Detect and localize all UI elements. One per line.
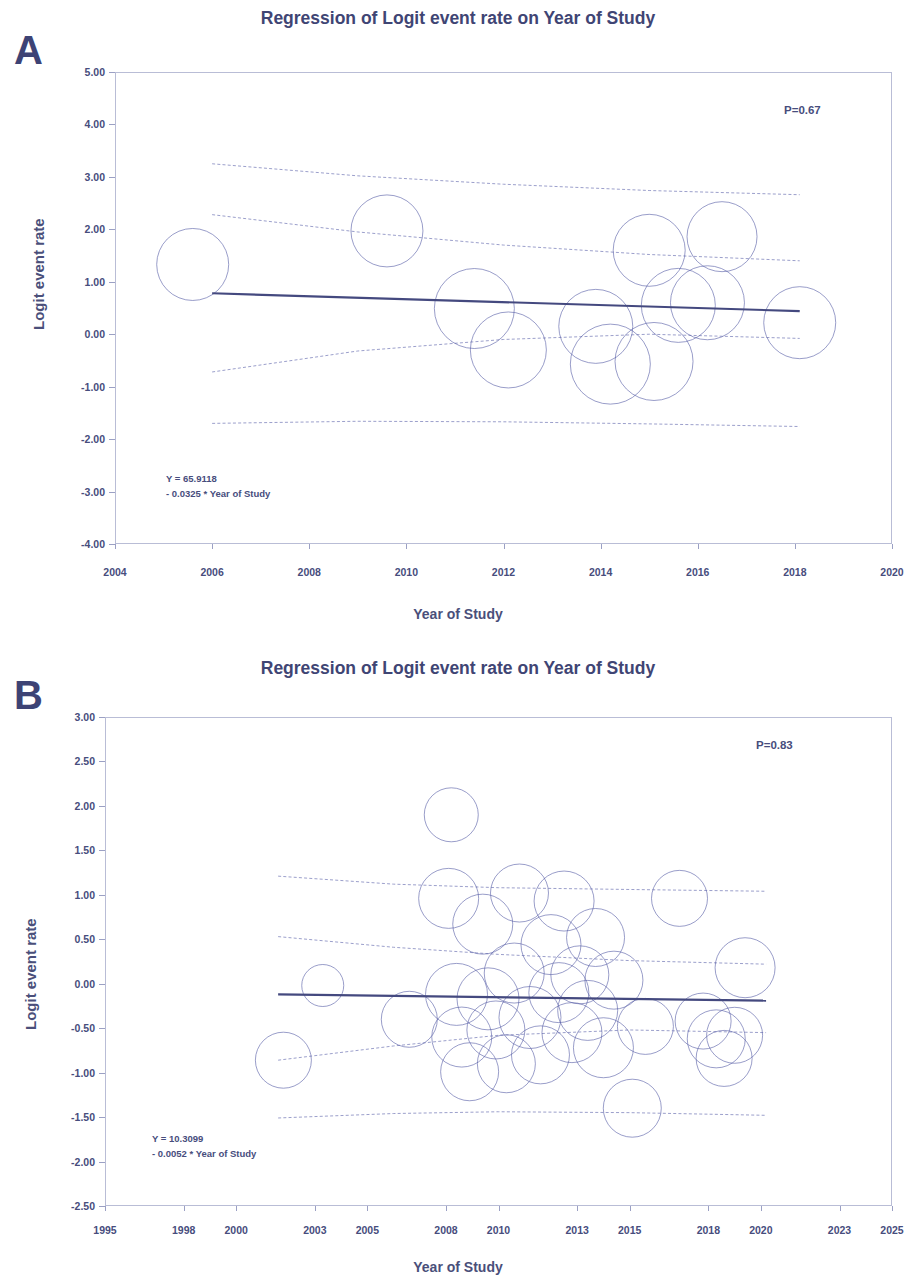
study-bubble bbox=[570, 324, 650, 404]
panel-b-pvalue: P=0.83 bbox=[756, 739, 793, 751]
study-bubble bbox=[424, 788, 478, 842]
panel-a-graphics bbox=[0, 0, 916, 640]
panel-a-equation: Y = 65.9118 - 0.0325 * Year of Study bbox=[166, 472, 270, 501]
study-bubble bbox=[434, 269, 514, 349]
study-bubble bbox=[613, 214, 685, 286]
study-bubble bbox=[490, 864, 548, 922]
regression-line bbox=[212, 293, 800, 311]
study-bubble bbox=[484, 943, 544, 1003]
study-bubble bbox=[302, 965, 344, 1007]
study-bubble bbox=[255, 1032, 311, 1088]
study-bubble bbox=[558, 980, 618, 1040]
study-bubble bbox=[529, 963, 589, 1023]
confidence-band-upper bbox=[212, 164, 800, 195]
study-bubble bbox=[511, 1026, 569, 1084]
study-bubble bbox=[441, 1043, 499, 1101]
prediction-band-upper bbox=[212, 215, 800, 261]
study-bubble bbox=[542, 1003, 602, 1063]
study-bubble bbox=[707, 1007, 763, 1063]
confidence-band-upper bbox=[278, 876, 766, 891]
study-bubble bbox=[573, 1018, 633, 1078]
study-bubble bbox=[426, 963, 488, 1025]
study-bubble bbox=[687, 202, 757, 272]
panel-a-equation-line1: Y = 65.9118 bbox=[166, 472, 270, 487]
study-bubble bbox=[157, 228, 229, 300]
study-bubble bbox=[696, 1030, 752, 1086]
study-bubble bbox=[351, 195, 423, 267]
prediction-band-upper bbox=[278, 937, 766, 965]
study-bubble bbox=[715, 938, 775, 998]
study-bubble bbox=[419, 868, 479, 928]
panel-a-equation-line2: - 0.0325 * Year of Study bbox=[166, 487, 270, 502]
confidence-band-lower bbox=[278, 1112, 766, 1118]
confidence-band-lower bbox=[212, 421, 800, 426]
study-bubble bbox=[603, 1079, 661, 1137]
study-bubble bbox=[499, 987, 561, 1049]
study-bubble bbox=[617, 998, 673, 1054]
study-bubble bbox=[764, 287, 836, 359]
study-bubble bbox=[381, 991, 437, 1047]
study-bubble bbox=[652, 870, 708, 926]
panel-b-equation-line2: - 0.0052 * Year of Study bbox=[152, 1147, 256, 1162]
panel-a: Regression of Logit event rate on Year o… bbox=[0, 0, 916, 640]
study-bubble bbox=[467, 1001, 525, 1059]
study-bubble bbox=[477, 1035, 535, 1093]
study-bubble bbox=[534, 871, 594, 931]
panel-a-pvalue: P=0.67 bbox=[784, 104, 821, 116]
study-bubble bbox=[470, 312, 546, 388]
panel-b: Regression of Logit event rate on Year o… bbox=[0, 645, 916, 1288]
panel-b-equation: Y = 10.3099 - 0.0052 * Year of Study bbox=[152, 1132, 256, 1161]
study-bubble bbox=[675, 993, 731, 1049]
study-bubble bbox=[457, 968, 519, 1030]
panel-b-equation-line1: Y = 10.3099 bbox=[152, 1132, 256, 1147]
